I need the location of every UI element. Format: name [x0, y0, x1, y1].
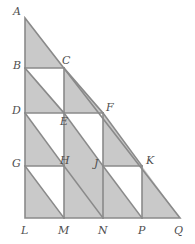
- vertex-label-m: M: [58, 225, 69, 236]
- vertex-label-l: L: [21, 225, 28, 236]
- vertex-label-b: B: [13, 60, 21, 71]
- vertex-label-d: D: [12, 105, 21, 116]
- vertex-label-q: Q: [174, 225, 183, 236]
- vertex-label-a: A: [13, 6, 21, 17]
- vertex-label-j: J: [94, 158, 98, 169]
- vertex-label-n: N: [98, 225, 108, 236]
- vertex-label-h: H: [60, 155, 70, 166]
- vertex-label-k: K: [146, 155, 154, 166]
- vertex-label-f: F: [106, 102, 114, 113]
- vertex-label-g: G: [12, 158, 21, 169]
- vertex-label-e: E: [60, 116, 68, 127]
- outline-lines-group: [25, 18, 180, 218]
- vertex-label-p: P: [138, 225, 145, 236]
- vertex-label-c: C: [62, 55, 70, 66]
- geometry-figure: ABCDEFGHJKLMNPQ: [0, 0, 195, 244]
- geometry-diagram: [0, 0, 195, 244]
